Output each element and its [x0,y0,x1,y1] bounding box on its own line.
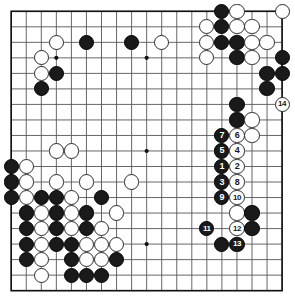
stone-white[interactable] [34,237,49,252]
stone-black[interactable] [229,112,244,127]
move-number-label: 1 [220,162,225,171]
numbered-stone-4[interactable]: 4 [229,143,244,158]
stone-black[interactable] [79,268,94,283]
stone-black[interactable] [34,190,49,205]
stone-white[interactable] [244,128,259,143]
stone-black[interactable] [79,205,94,220]
stone-white[interactable] [19,174,34,189]
numbered-stone-2[interactable]: 2 [229,159,244,174]
star-point [145,242,149,246]
stone-white[interactable] [94,237,109,252]
stone-white[interactable] [64,143,79,158]
stone-white[interactable] [19,159,34,174]
stone-black[interactable] [49,66,64,81]
numbered-stone-13[interactable]: 13 [229,237,244,252]
stone-white[interactable] [79,237,94,252]
stone-black[interactable] [49,205,64,220]
stone-white[interactable] [34,205,49,220]
move-number-label: 13 [233,240,241,248]
stone-white[interactable] [244,112,259,127]
stone-white[interactable] [49,174,64,189]
stone-black[interactable] [244,221,259,236]
stone-black[interactable] [19,205,34,220]
stone-black[interactable] [64,268,79,283]
move-number-label: 2 [235,162,240,171]
stone-white[interactable] [109,205,124,220]
move-number-label: 14 [278,100,286,108]
stone-white[interactable] [49,143,64,158]
stone-white[interactable] [229,205,244,220]
move-number-label: 8 [235,178,240,187]
numbered-stone-6[interactable]: 6 [229,128,244,143]
stone-white[interactable] [229,4,244,19]
numbered-stone-5[interactable]: 5 [214,143,229,158]
stone-white[interactable] [79,174,94,189]
stone-white[interactable] [34,252,49,267]
stone-black[interactable] [4,159,19,174]
stone-black[interactable] [229,35,244,50]
stone-white[interactable] [259,35,274,50]
stone-white[interactable] [34,66,49,81]
stone-white[interactable] [229,19,244,34]
stone-black[interactable] [64,237,79,252]
numbered-stone-12[interactable]: 12 [229,221,244,236]
stone-black[interactable] [259,66,274,81]
stone-white[interactable] [244,35,259,50]
numbered-stone-8[interactable]: 8 [229,174,244,189]
stone-white[interactable] [49,35,64,50]
star-point [145,56,149,60]
stone-white[interactable] [275,4,290,19]
stone-black[interactable] [49,190,64,205]
move-number-label: 11 [203,225,211,233]
move-number-label: 3 [220,178,225,187]
stone-white[interactable] [244,19,259,34]
stone-white[interactable] [124,174,139,189]
stone-black[interactable] [49,221,64,236]
move-number-label: 6 [235,131,240,140]
stone-white[interactable] [109,237,124,252]
stone-black[interactable] [94,268,109,283]
stone-black[interactable] [4,190,19,205]
stone-black[interactable] [19,221,34,236]
stone-black[interactable] [244,205,259,220]
numbered-stone-14[interactable]: 14 [275,97,290,112]
move-number-label: 5 [220,146,225,155]
stone-white[interactable] [19,190,34,205]
numbered-stone-3[interactable]: 3 [214,174,229,189]
move-number-label: 12 [233,225,241,233]
stone-black[interactable] [19,237,34,252]
move-number-label: 10 [233,194,241,202]
stone-white[interactable] [34,221,49,236]
stone-black[interactable] [19,252,34,267]
stone-white[interactable] [64,221,79,236]
stone-black[interactable] [259,81,274,96]
move-number-label: 9 [220,193,225,202]
numbered-stone-10[interactable]: 10 [229,190,244,205]
stone-black[interactable] [275,50,290,65]
stone-black[interactable] [275,66,290,81]
stone-white[interactable] [64,205,79,220]
stone-white[interactable] [34,268,49,283]
stone-black[interactable] [4,174,19,189]
stone-black[interactable] [49,237,64,252]
go-board-container: 1476541238910111213 [0,0,295,306]
stone-white[interactable] [244,50,259,65]
stone-black[interactable] [229,50,244,65]
star-point [145,149,149,153]
star-point [54,56,58,60]
move-number-label: 4 [235,146,240,155]
stone-white[interactable] [64,190,79,205]
stone-black[interactable] [229,97,244,112]
stone-black[interactable] [79,35,94,50]
stone-black[interactable] [124,35,139,50]
move-number-label: 7 [220,131,225,140]
